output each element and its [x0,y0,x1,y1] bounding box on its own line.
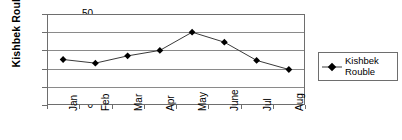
chart-legend: Kishbek Rouble [318,52,398,81]
data-point-marker [60,56,67,63]
x-axis-tick-mark [241,105,242,109]
line-chart: Kishbek Rouble 01020304050 JanFebMarAprM… [0,0,402,140]
x-axis-tick-mark [47,105,48,109]
y-axis-title: Kishbek Rouble [9,0,23,75]
data-point-marker [124,52,131,59]
data-point-marker [221,39,228,46]
x-axis-tick-mark [79,105,80,109]
x-axis-tick-label: Jul [262,71,273,111]
legend-entry-label: Kishbek Rouble [345,56,397,77]
x-axis-tick-label: Apr [165,71,176,111]
data-point-marker [285,66,292,73]
x-axis-tick-mark [112,105,113,109]
x-axis-tick-mark [208,105,209,109]
data-point-marker [156,47,163,54]
x-axis-tick-label: Mar [133,71,144,111]
data-point-marker [92,60,99,67]
x-axis-tick-label: May [197,71,208,111]
x-axis-tick-label: Jan [68,71,79,111]
legend-label-line2: Rouble [345,67,397,78]
data-point-marker [253,57,260,64]
data-point-marker [189,29,196,36]
x-axis-tick-label: Feb [100,71,111,111]
x-axis-tick-mark [176,105,177,109]
chart-title [47,0,305,3]
x-axis-tick-label: Aug [294,71,305,111]
diamond-marker-icon [319,53,345,80]
x-axis-tick-mark [305,105,306,109]
x-axis-tick-label: June [229,71,240,111]
legend-label-line1: Kishbek [345,56,397,67]
